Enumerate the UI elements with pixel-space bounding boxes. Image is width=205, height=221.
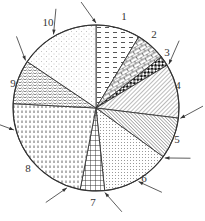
arrow-head-icon (169, 59, 172, 64)
arrow-head-icon (180, 115, 185, 119)
pie-chart: 12345678910 (0, 0, 205, 221)
slice-label-7: 7 (90, 196, 96, 208)
slice-label-2: 2 (151, 28, 157, 40)
slice-label-1: 1 (121, 10, 127, 22)
slice-label-4: 4 (175, 79, 181, 91)
slice-label-8: 8 (25, 162, 31, 174)
slice-label-3: 3 (164, 46, 170, 58)
slice-label-5: 5 (174, 133, 180, 145)
arrow-head-icon (62, 188, 67, 192)
arrow-head-icon (165, 156, 170, 159)
slice-label-6: 6 (141, 172, 147, 184)
arrow-head-icon (22, 55, 25, 60)
arrow-head-icon (92, 18, 96, 23)
arrow-head-icon (9, 127, 14, 130)
pie-slices (13, 25, 179, 191)
slice-label-9: 9 (10, 77, 16, 89)
slice-label-10: 10 (43, 16, 55, 28)
